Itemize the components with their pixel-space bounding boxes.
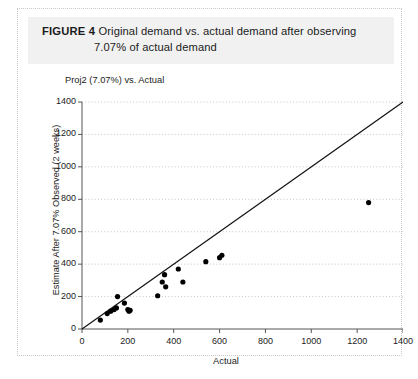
y-tick-label: 200 <box>40 291 76 301</box>
x-tick-label: 1400 <box>383 336 418 346</box>
identity-line <box>82 102 403 329</box>
y-tick-label: 600 <box>40 226 76 236</box>
figure-panel: FIGURE 4 Original demand vs. actual dema… <box>17 8 402 356</box>
x-tick-label: 0 <box>62 336 102 346</box>
y-tick-label: 0 <box>40 323 76 333</box>
scatter-plot: Proj2 (7.07%) vs. Actual Estimate After … <box>18 9 403 357</box>
y-tick-label: 1200 <box>40 128 76 138</box>
x-tick-label: 1200 <box>337 336 377 346</box>
x-tick-label: 1000 <box>291 336 331 346</box>
x-tick-label: 800 <box>245 336 285 346</box>
data-points <box>98 200 371 323</box>
y-axis-title: Estimate After 7.07% Observed (2 weeks) <box>51 110 61 310</box>
y-tick-label: 1000 <box>40 161 76 171</box>
x-axis-title: Actual <box>64 356 388 366</box>
x-tick-label: 400 <box>154 336 194 346</box>
y-tick-label: 800 <box>40 193 76 203</box>
y-tick-label: 1400 <box>40 96 76 106</box>
gridlines <box>82 102 403 297</box>
x-tick-label: 200 <box>108 336 148 346</box>
chart-title: Proj2 (7.07%) vs. Actual <box>65 75 164 85</box>
x-tick-label: 600 <box>200 336 240 346</box>
plot-canvas <box>18 9 403 357</box>
y-tick-label: 400 <box>40 258 76 268</box>
